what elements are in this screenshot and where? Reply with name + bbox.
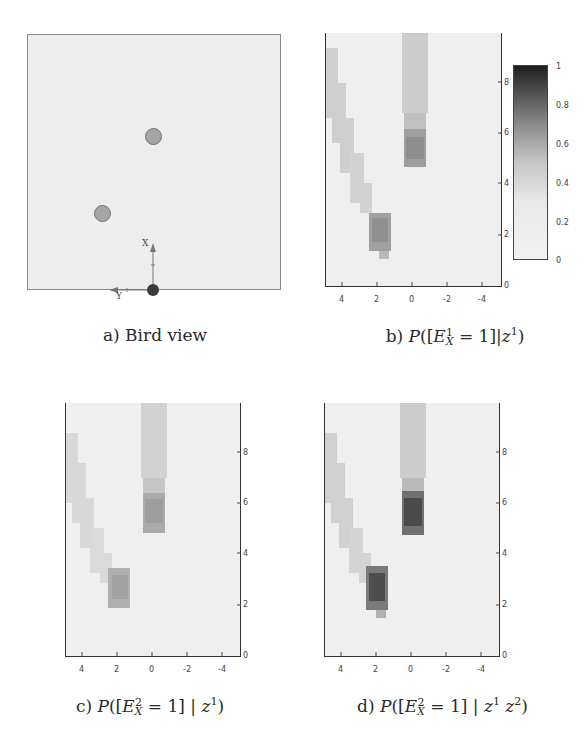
y-tick: 4 [243, 549, 248, 558]
robot-axes-icon [100, 235, 170, 305]
y-tick: 2 [243, 600, 248, 609]
caption-d: d) P([E2X = 1] | z1 z2) [300, 695, 585, 716]
x-tick: -4 [218, 665, 226, 674]
axes-d [314, 398, 514, 683]
colorbar-tick: 0.2 [556, 218, 569, 227]
x-tick: 2 [373, 665, 378, 674]
x-tick: -4 [477, 665, 485, 674]
x-tick: 0 [409, 295, 414, 304]
colorbar-tick: 0.8 [556, 101, 569, 110]
axes-b [315, 28, 515, 313]
y-tick: 4 [504, 179, 509, 188]
x-tick: 0 [149, 665, 154, 674]
obstacle-marker [145, 128, 162, 145]
x-tick: 4 [339, 295, 344, 304]
y-tick: 0 [243, 651, 248, 660]
y-tick: 8 [504, 78, 509, 87]
x-tick: -2 [183, 665, 191, 674]
y-axis-label: Y [116, 291, 122, 301]
y-tick: 4 [502, 549, 507, 558]
colorbar [513, 65, 548, 260]
caption-c: c) P([E2X = 1] | z1) [20, 695, 280, 716]
y-tick: 6 [504, 128, 509, 137]
caption-a: a) Bird view [60, 325, 250, 345]
y-tick: 2 [502, 600, 507, 609]
caption-b: b) P([E1X = 1]|z1) [345, 325, 565, 346]
x-tick: -2 [442, 665, 450, 674]
y-tick: 2 [504, 230, 509, 239]
obstacle-marker [94, 205, 111, 222]
x-tick: 4 [79, 665, 84, 674]
y-tick: 0 [502, 651, 507, 660]
robot-marker [147, 284, 159, 296]
x-tick: 2 [374, 295, 379, 304]
colorbar-tick: 1 [556, 62, 561, 71]
x-tick: -4 [478, 295, 486, 304]
colorbar-tick: 0.6 [556, 140, 569, 149]
y-tick: 6 [502, 498, 507, 507]
colorbar-tick: 0 [556, 256, 561, 265]
y-tick: 8 [502, 448, 507, 457]
x-axis-label: X [142, 238, 148, 248]
x-tick: 0 [408, 665, 413, 674]
y-tick: 8 [243, 448, 248, 457]
x-tick: 2 [114, 665, 119, 674]
y-tick: 6 [243, 498, 248, 507]
x-tick: -2 [443, 295, 451, 304]
y-tick: 0 [504, 281, 509, 290]
x-tick: 4 [338, 665, 343, 674]
axes-c [55, 398, 255, 683]
colorbar-tick: 0.4 [556, 179, 569, 188]
